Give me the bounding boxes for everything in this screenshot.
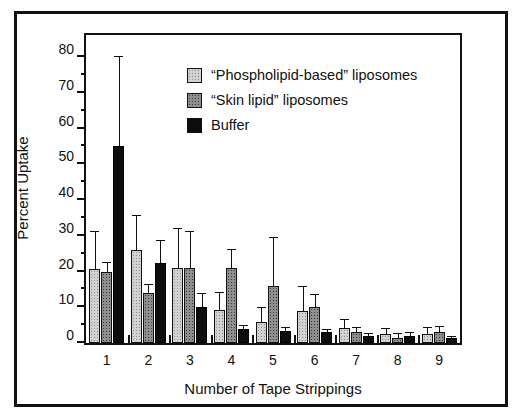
error-bar-stem	[368, 334, 369, 336]
error-bar-stem	[190, 232, 191, 268]
error-bar-cap	[269, 237, 278, 238]
error-bar-stem	[410, 333, 411, 336]
error-bar-cap	[381, 328, 390, 329]
y-axis-tick-label: 60	[58, 113, 74, 129]
y-axis-tick-minor	[81, 180, 86, 182]
error-bar-stem	[285, 328, 286, 330]
error-bar-stem	[243, 326, 244, 329]
error-bar-stem	[427, 328, 428, 334]
error-bar-stem	[451, 337, 452, 339]
error-bar-stem	[398, 334, 399, 338]
y-axis-tick-major	[77, 198, 86, 200]
error-bar-stem	[344, 320, 345, 328]
error-bar-cap	[281, 327, 290, 328]
bar-9-series-1	[434, 332, 445, 343]
error-bar-cap	[144, 284, 153, 285]
legend-label-phospholipid: “Phospholipid-based” liposomes	[211, 67, 417, 83]
bar-6-series-2	[321, 332, 332, 343]
bar-9-series-0	[422, 334, 433, 343]
bar-7-series-2	[363, 336, 374, 343]
error-bar-cap	[364, 333, 373, 334]
error-bar-stem	[136, 216, 137, 250]
bar-1-series-2	[113, 146, 124, 343]
x-axis-tick	[169, 335, 171, 343]
y-axis-tick-label: 80	[58, 41, 74, 57]
error-bar-cap	[239, 325, 248, 326]
error-bar-stem	[202, 294, 203, 307]
y-axis-tick-minor	[81, 144, 86, 146]
y-axis-tick-label: 30	[58, 220, 74, 236]
bar-2-series-1	[143, 293, 154, 343]
error-bar-cap	[435, 326, 444, 327]
legend-item-phospholipid: “Phospholipid-based” liposomes	[187, 64, 417, 86]
error-bar-cap	[423, 327, 432, 328]
bar-8-series-2	[404, 336, 415, 343]
bar-2-series-2	[155, 263, 166, 343]
error-bar-cap	[340, 319, 349, 320]
y-axis-tick-major	[77, 127, 86, 129]
error-bar-cap	[215, 292, 224, 293]
bar-5-series-0	[256, 322, 267, 343]
y-axis-tick-label: 50	[58, 148, 74, 164]
y-axis-tick-major	[77, 55, 86, 57]
y-axis-tick-major	[77, 341, 86, 343]
legend-label-skin-lipid: “Skin lipid” liposomes	[211, 92, 348, 108]
bar-7-series-1	[351, 332, 362, 343]
bar-6-series-0	[297, 311, 308, 343]
error-bar-cap	[114, 56, 123, 57]
x-axis-title: Number of Tape Strippings	[184, 380, 361, 397]
x-axis-tick	[252, 335, 254, 343]
bar-7-series-0	[339, 328, 350, 343]
bar-5-series-1	[268, 286, 279, 343]
error-bar-stem	[303, 287, 304, 311]
y-axis-title: Percent Uptake	[14, 136, 31, 239]
bar-1-series-0	[89, 269, 100, 343]
y-axis-tick-minor	[81, 216, 86, 218]
legend-item-skin-lipid: “Skin lipid” liposomes	[187, 89, 417, 111]
error-bar-cap	[90, 231, 99, 232]
y-axis-tick-label: 10	[58, 291, 74, 307]
bar-9-series-2	[446, 338, 457, 343]
y-axis-tick-label: 40	[58, 184, 74, 200]
error-bar-stem	[327, 330, 328, 332]
x-axis-tick	[294, 335, 296, 343]
y-axis-tick-minor	[81, 109, 86, 111]
error-bar-cap	[447, 336, 456, 337]
y-axis-tick-label: 0	[66, 327, 74, 343]
error-bar-stem	[315, 295, 316, 308]
error-bar-cap	[352, 327, 361, 328]
chart-legend: “Phospholipid-based” liposomes “Skin lip…	[187, 64, 417, 139]
figure-panel: Percent Uptake Number of Tape Strippings…	[0, 0, 522, 419]
x-axis-tick-label: 6	[311, 352, 319, 368]
error-bar-cap	[197, 293, 206, 294]
error-bar-stem	[178, 229, 179, 268]
y-axis-tick-minor	[81, 252, 86, 254]
y-axis-tick-major	[77, 91, 86, 93]
error-bar-cap	[185, 231, 194, 232]
y-axis-tick-major	[77, 162, 86, 164]
y-axis-tick-major	[77, 234, 86, 236]
error-bar-cap	[227, 249, 236, 250]
bar-3-series-1	[184, 268, 195, 343]
error-bar-cap	[405, 332, 414, 333]
x-axis-tick-label: 2	[144, 352, 152, 368]
bar-6-series-1	[309, 307, 320, 343]
error-bar-cap	[132, 215, 141, 216]
y-axis-tick-label: 20	[58, 256, 74, 272]
bar-3-series-0	[172, 268, 183, 343]
bar-5-series-2	[280, 331, 291, 344]
y-axis-tick-label: 70	[58, 77, 74, 93]
error-bar-cap	[322, 329, 331, 330]
x-axis-tick-label: 1	[103, 352, 111, 368]
x-axis-tick-label: 4	[228, 352, 236, 368]
error-bar-stem	[119, 57, 120, 146]
error-bar-stem	[439, 327, 440, 333]
error-bar-cap	[310, 294, 319, 295]
error-bar-stem	[148, 285, 149, 293]
y-axis-tick-minor	[81, 323, 86, 325]
x-axis-tick-label: 7	[352, 352, 360, 368]
error-bar-cap	[298, 286, 307, 287]
y-axis-tick-major	[77, 270, 86, 272]
y-axis-tick-minor	[81, 287, 86, 289]
x-axis-tick-label: 8	[394, 352, 402, 368]
